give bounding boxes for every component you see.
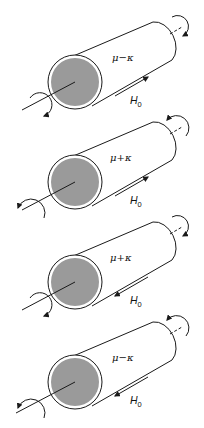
field-label: H0 [130,394,142,409]
cylinder-4: μ−κ H0 [16,316,189,418]
field-label: H0 [130,294,142,309]
far-axis-dashed [170,27,182,34]
cylinder-3: μ+κ H0 [22,216,188,316]
cylinder-2: μ+κ H0 [18,116,189,218]
cylinder-diagram: μ−κ H0 μ+κ H0 μ+κ H0 [0,0,204,428]
far-axis-dashed [170,227,182,234]
far-axis-dashed [170,327,182,334]
cylinder-1: μ−κ H0 [22,16,188,116]
cylinder-label: μ+κ [110,152,132,163]
field-label: H0 [130,94,142,109]
near-rotation-arrow-icon [18,199,45,218]
far-rotation-arrow-icon [172,16,188,36]
field-label: H0 [130,194,142,209]
cylinder-label: μ−κ [112,52,134,63]
cylinder-label: μ−κ [112,352,134,363]
far-axis-dashed [170,127,182,134]
far-rotation-arrow-icon [172,216,188,236]
near-rotation-arrow-icon [18,399,45,418]
cylinder-label: μ+κ [110,252,132,263]
